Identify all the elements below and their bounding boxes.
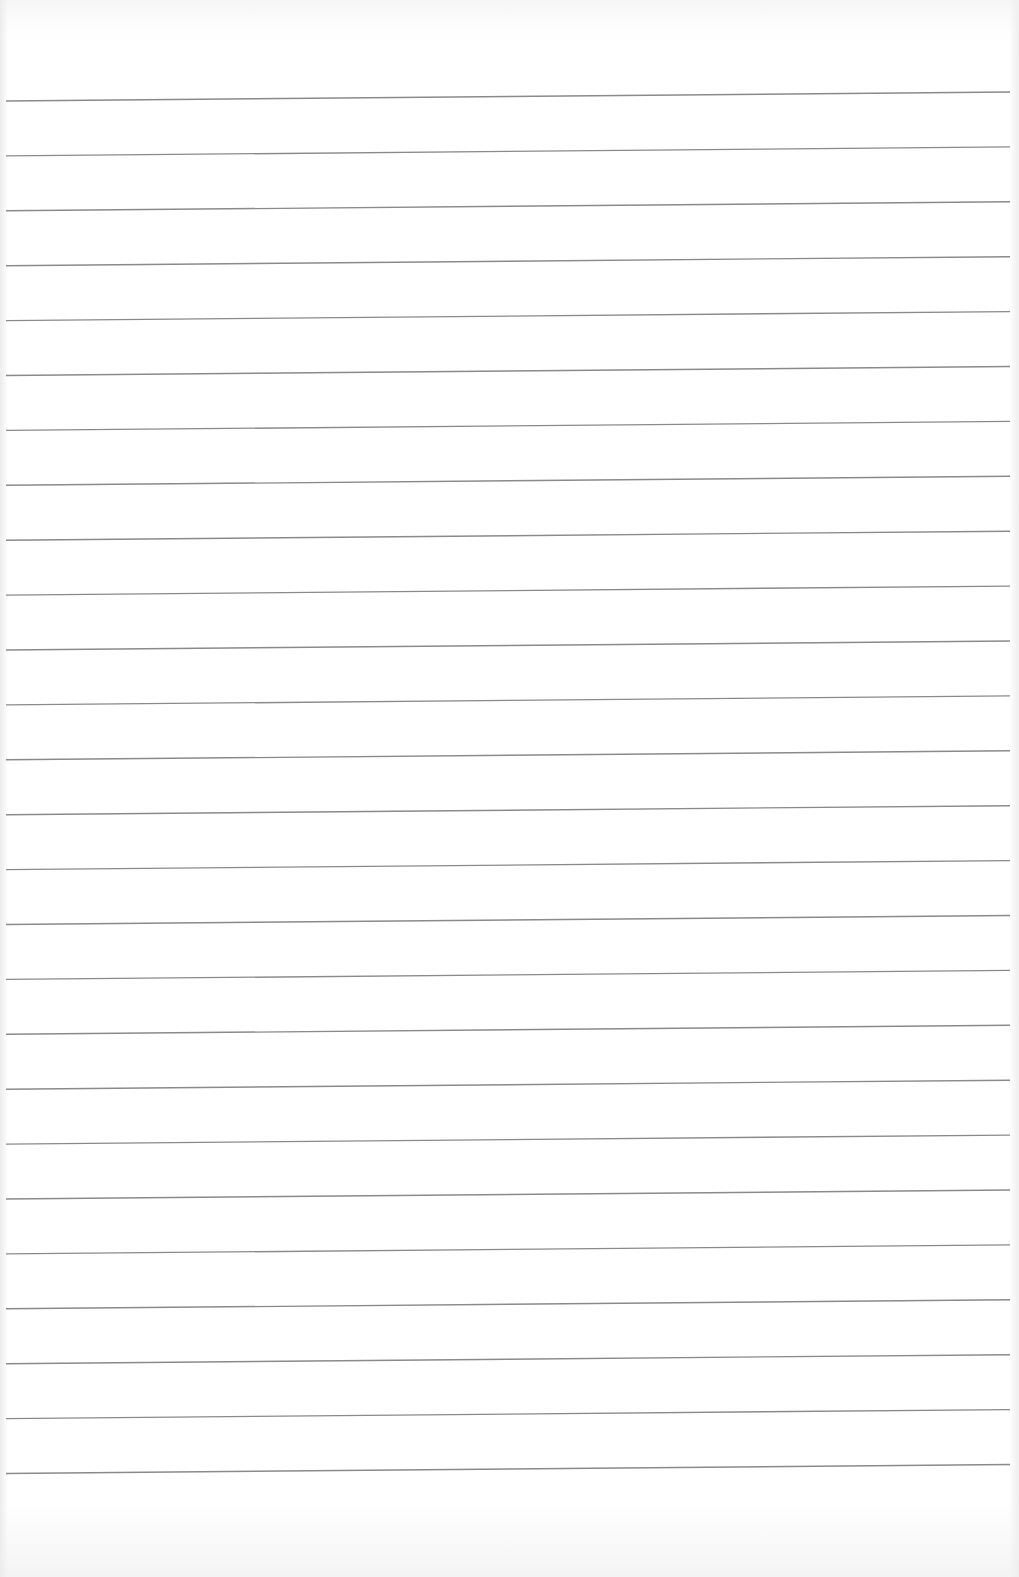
ruled-paper-sheet: [0, 0, 1019, 1577]
ruled-line: [6, 1080, 1010, 1089]
ruled-line: [6, 751, 1010, 760]
ruled-line: [6, 696, 1010, 705]
ruled-line: [6, 1410, 1010, 1419]
ruled-line: [6, 1245, 1010, 1254]
ruled-line: [6, 1025, 1010, 1034]
ruled-line: [6, 1135, 1010, 1144]
ruled-line: [6, 641, 1010, 650]
ruled-line: [6, 1300, 1010, 1309]
ruled-line: [6, 1355, 1010, 1364]
ruled-line: [6, 1465, 1010, 1474]
ruled-line: [6, 916, 1010, 925]
ruled-line: [6, 202, 1010, 211]
ruled-line: [6, 970, 1010, 979]
ruled-line: [6, 147, 1010, 156]
ruled-line: [6, 476, 1010, 485]
ruled-line: [6, 312, 1010, 321]
ruled-line: [6, 1190, 1010, 1199]
ruled-line: [6, 257, 1010, 266]
ruled-line: [6, 421, 1010, 430]
ruled-line: [6, 586, 1010, 595]
ruled-line: [6, 92, 1010, 101]
ruled-line: [6, 531, 1010, 540]
ruled-lines: [0, 0, 1019, 1577]
ruled-line: [6, 806, 1010, 815]
ruled-line: [6, 367, 1010, 376]
ruled-line: [6, 861, 1010, 870]
